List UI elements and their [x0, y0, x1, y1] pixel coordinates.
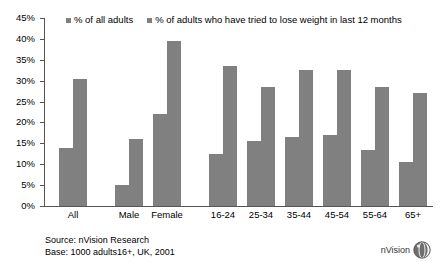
y-tick-label: 10%	[16, 159, 35, 169]
chart-bar	[153, 114, 167, 206]
chart-bar	[285, 137, 299, 206]
chart-screenshot: % of all adults % of adults who have tri…	[0, 0, 440, 268]
chart-bar	[413, 93, 427, 206]
chart-bar	[375, 87, 389, 206]
chart-bar	[337, 70, 351, 206]
x-tick-label: 35-44	[287, 209, 311, 221]
chart-footnote: Source: nVision Research Base: 1000 adul…	[45, 234, 175, 258]
x-tick-label: 25-34	[249, 209, 273, 221]
y-tick-label: 45%	[16, 13, 35, 23]
y-tick-label: 0%	[21, 201, 35, 211]
y-tick-label: 15%	[16, 138, 35, 148]
y-axis: 0%5%10%15%20%25%30%35%40%45%	[0, 18, 40, 208]
x-tick-label: All	[68, 209, 79, 221]
chart-bar	[361, 150, 375, 206]
x-tick-label: 16-24	[211, 209, 235, 221]
plot-area: 0%5%10%15%20%25%30%35%40%45%	[0, 18, 440, 208]
sphere-icon	[412, 240, 432, 260]
y-tick-label: 30%	[16, 76, 35, 86]
x-tick-label: 45-54	[325, 209, 349, 221]
chart-bar	[223, 66, 237, 206]
y-tick-label: 25%	[16, 97, 35, 107]
y-tick-label: 5%	[21, 180, 35, 190]
x-tick-label: 55-64	[363, 209, 387, 221]
chart-bar	[167, 41, 181, 206]
x-tick-label: 65+	[405, 209, 421, 221]
chart-bar	[115, 185, 129, 206]
chart-bar	[209, 154, 223, 206]
chart-bar	[299, 70, 313, 206]
chart-bar	[59, 148, 73, 206]
x-axis-labels: AllMaleFemale16-2425-3435-4445-5455-6465…	[45, 209, 433, 223]
chart-bar	[323, 135, 337, 206]
bars-container	[45, 18, 433, 206]
chart-bar	[129, 139, 143, 206]
y-tick-label: 20%	[16, 117, 35, 127]
nvision-logo: nVision	[381, 240, 432, 260]
y-tick-label: 35%	[16, 55, 35, 65]
chart-bar	[399, 162, 413, 206]
chart-bar	[73, 79, 87, 206]
chart-bar	[261, 87, 275, 206]
x-tick-label: Female	[151, 209, 183, 221]
x-axis-line	[44, 206, 433, 207]
footnote-base: Base: 1000 adults16+, UK, 2001	[45, 246, 175, 258]
x-tick-label: Male	[119, 209, 140, 221]
chart-bar	[247, 141, 261, 206]
footnote-source: Source: nVision Research	[45, 234, 175, 246]
logo-text: nVision	[381, 245, 410, 255]
y-tick-label: 40%	[16, 34, 35, 44]
